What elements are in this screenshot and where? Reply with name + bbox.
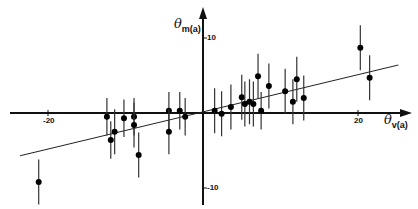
point-marker xyxy=(357,45,363,51)
point-marker xyxy=(131,122,137,128)
point-marker xyxy=(212,108,218,114)
point-marker xyxy=(239,94,245,100)
y-tick-label-neg10: -10 xyxy=(207,183,219,192)
point-marker xyxy=(255,73,261,79)
point-marker xyxy=(104,114,110,120)
x-tick-label-20: 20 xyxy=(354,116,363,125)
point-marker xyxy=(219,111,225,117)
y-tick-label-10: 10 xyxy=(207,33,216,42)
point-marker xyxy=(182,114,188,120)
y-axis-label-sub: m xyxy=(182,24,190,34)
x-tick-label-neg20: -20 xyxy=(43,116,55,125)
data-point xyxy=(266,64,272,109)
point-marker xyxy=(136,152,142,158)
data-point xyxy=(219,91,225,136)
point-marker xyxy=(301,95,307,101)
data-point xyxy=(255,54,261,99)
point-marker xyxy=(121,115,127,121)
data-point xyxy=(357,25,363,70)
data-point xyxy=(182,98,188,136)
data-point xyxy=(212,88,218,133)
point-marker xyxy=(112,129,118,135)
point-marker xyxy=(290,99,296,105)
data-point xyxy=(131,103,137,148)
point-marker xyxy=(282,88,288,94)
point-marker xyxy=(108,137,114,143)
point-marker xyxy=(36,179,42,185)
point-marker xyxy=(228,104,234,110)
data-point xyxy=(177,92,183,130)
data-point xyxy=(290,79,296,124)
data-point xyxy=(242,82,248,127)
x-axis-label: θv(a) xyxy=(384,112,408,130)
y-axis-label-main: θ xyxy=(174,16,182,31)
y-axis-label: θm(a) xyxy=(174,16,201,34)
x-axis-label-main: θ xyxy=(384,112,392,127)
data-point xyxy=(36,160,42,205)
x-axis-label-suffix: (a) xyxy=(397,120,408,130)
point-marker xyxy=(258,108,264,114)
data-point xyxy=(108,121,114,159)
point-marker xyxy=(166,129,172,135)
point-marker xyxy=(250,101,256,107)
point-marker xyxy=(266,83,272,89)
data-point xyxy=(250,82,256,127)
point-marker xyxy=(367,75,373,81)
point-marker xyxy=(294,76,300,82)
data-point xyxy=(294,57,300,102)
data-point xyxy=(112,109,118,154)
data-point xyxy=(166,109,172,154)
point-marker xyxy=(177,108,183,114)
regression-line xyxy=(20,65,398,156)
data-point xyxy=(136,133,142,178)
data-point xyxy=(282,69,288,114)
y-axis-label-suffix: (a) xyxy=(190,24,201,34)
data-point xyxy=(104,98,110,136)
data-point xyxy=(228,85,234,130)
data-points xyxy=(36,25,373,204)
scatter-plot xyxy=(0,0,418,209)
data-point xyxy=(367,55,373,100)
